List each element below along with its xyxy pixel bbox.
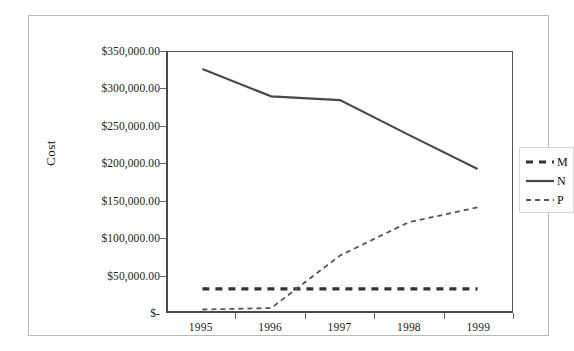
series-line-p <box>202 207 477 309</box>
legend-item-p[interactable]: P <box>520 190 573 209</box>
legend-label: M <box>557 156 568 168</box>
legend-item-m[interactable]: M <box>520 152 573 171</box>
y-axis-tick-mark <box>160 51 166 52</box>
y-axis-title: Cost <box>41 144 61 214</box>
x-axis-tick-label: 1997 <box>328 321 352 333</box>
legend-label: P <box>557 194 564 206</box>
series-line-n <box>202 69 477 169</box>
y-axis-tick-mark <box>160 276 166 277</box>
y-axis-tick-label: $50,000.00 <box>107 270 160 282</box>
x-axis-tick-label: 1998 <box>397 321 421 333</box>
y-axis-tick-label: $- <box>150 307 160 319</box>
x-axis-tick-mark <box>444 313 445 319</box>
plot-series-svg <box>168 52 512 311</box>
y-axis-tick-label: $100,000.00 <box>101 232 160 244</box>
x-axis-tick-labels: 19951996199719981999 <box>166 319 513 339</box>
chart-frame: Cost $-$50,000.00$100,000.00$150,000.00$… <box>28 15 549 336</box>
chart-legend: MNP <box>519 147 574 213</box>
x-axis-tick-mark <box>374 313 375 319</box>
x-axis-tick-mark <box>235 313 236 319</box>
y-axis-title-text: Cost <box>41 146 61 166</box>
x-axis-tick-label: 1996 <box>258 321 282 333</box>
y-axis-tick-mark <box>160 238 166 239</box>
y-axis-tick-mark <box>160 126 166 127</box>
y-axis-tick-label: $300,000.00 <box>101 82 160 94</box>
y-axis-tick-mark <box>160 201 166 202</box>
x-axis-tick-mark <box>513 313 514 319</box>
legend-item-n[interactable]: N <box>520 171 573 190</box>
legend-swatch-n-icon <box>525 176 555 186</box>
x-axis-tick-mark <box>305 313 306 319</box>
y-axis-tick-mark <box>160 88 166 89</box>
y-axis-tick-labels: $-$50,000.00$100,000.00$150,000.00$200,0… <box>59 51 160 313</box>
x-axis-tick-label: 1999 <box>466 321 490 333</box>
legend-swatch-p-icon <box>525 195 555 205</box>
y-axis-tick-label: $350,000.00 <box>101 45 160 57</box>
y-axis-tick-mark <box>160 163 166 164</box>
y-axis-tick-label: $250,000.00 <box>101 120 160 132</box>
plot-area <box>166 51 513 313</box>
y-axis-tick-label: $200,000.00 <box>101 157 160 169</box>
legend-label: N <box>557 175 566 187</box>
y-axis-tick-label: $150,000.00 <box>101 195 160 207</box>
legend-swatch-m-icon <box>525 157 555 167</box>
x-axis-tick-label: 1995 <box>189 321 213 333</box>
